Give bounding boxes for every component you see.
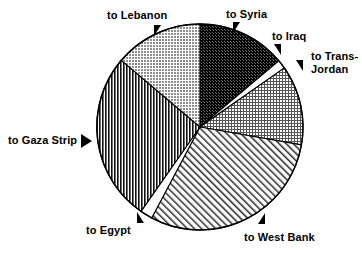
pointer-arrow-lebanon: [154, 25, 161, 36]
pointer-arrow-iraq: [274, 44, 281, 55]
pie-chart-figure: to Lebanon to Syria to Iraq to Trans- Jo…: [0, 0, 362, 254]
slice-label-iraq: to Iraq: [272, 30, 306, 43]
slice-label-gaza-strip: to Gaza Strip: [8, 134, 77, 147]
pie-slices: [97, 24, 303, 230]
pointer-arrow-syria: [233, 22, 240, 33]
pointer-arrow-west-bank: [258, 213, 265, 224]
slice-label-trans-jordan: to Trans- Jordan: [311, 50, 358, 75]
slice-label-lebanon: to Lebanon: [107, 9, 167, 22]
slice-label-west-bank: to West Bank: [244, 231, 315, 244]
slice-label-syria: to Syria: [226, 8, 267, 21]
pointer-arrow-trans-jordan: [296, 60, 303, 71]
pointer-arrow-egypt: [137, 212, 144, 223]
pointer-arrow-gaza-strip: [81, 134, 92, 148]
slice-label-egypt: to Egypt: [86, 224, 131, 237]
pie-chart-svg: [0, 0, 362, 254]
